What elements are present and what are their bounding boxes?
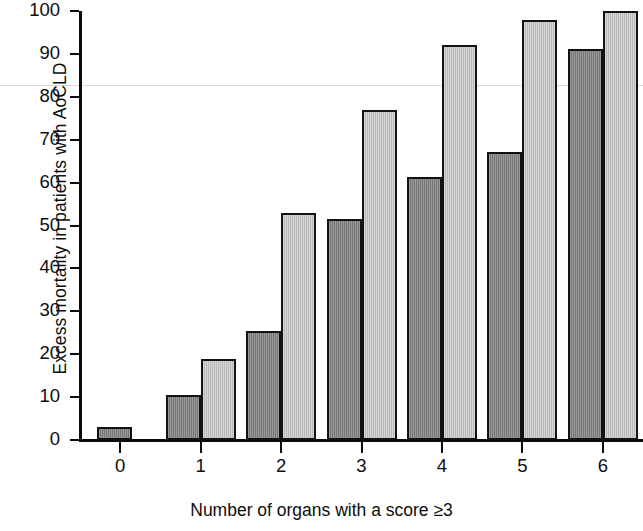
- y-axis-tick-label: 70: [14, 130, 60, 149]
- bar-series-dark-cat-1: [166, 395, 201, 440]
- y-axis-tick-label: 30: [14, 301, 60, 320]
- y-axis-tick-mark: [70, 396, 79, 398]
- y-axis-tick-label: 100: [14, 1, 60, 20]
- bar-series-dark-cat-4: [407, 177, 442, 440]
- bar-series-dark-cat-2: [246, 331, 281, 440]
- y-axis-tick-label: 20: [14, 344, 60, 363]
- x-axis-tick-mark: [200, 442, 202, 453]
- bar-series-light-cat-6: [603, 11, 638, 440]
- y-axis-tick-mark: [70, 310, 79, 312]
- x-axis-tick-label-3: 3: [342, 455, 382, 477]
- y-axis-tick-mark: [70, 353, 79, 355]
- plot-area: [80, 11, 643, 440]
- y-axis-tick-label: 90: [14, 44, 60, 63]
- x-axis-tick-label-4: 4: [422, 455, 462, 477]
- y-axis-tick-label: 0: [14, 430, 60, 449]
- y-axis-tick-mark: [70, 96, 79, 98]
- y-axis-tick-label: 80: [14, 87, 60, 106]
- bar-chart-figure: Excess mortality in patients with AoCLD …: [0, 0, 643, 531]
- x-axis-tick-mark: [361, 442, 363, 453]
- y-axis-tick-label: 40: [14, 258, 60, 277]
- bar-series-light-cat-2: [281, 213, 316, 440]
- y-axis-tick-mark: [70, 439, 79, 441]
- x-axis-title: Number of organs with a score ≥3: [0, 500, 643, 521]
- x-axis-tick-label-6: 6: [583, 455, 623, 477]
- x-axis-tick-mark: [280, 442, 282, 453]
- x-axis-tick-label-5: 5: [502, 455, 542, 477]
- bar-series-light-cat-4: [442, 45, 477, 440]
- y-axis-tick-mark: [70, 267, 79, 269]
- x-axis-tick-mark: [119, 442, 121, 453]
- y-axis-tick-label: 50: [14, 216, 60, 235]
- x-axis-tick-label-2: 2: [261, 455, 301, 477]
- y-axis-tick-label: 60: [14, 173, 60, 192]
- y-axis-tick-mark: [70, 53, 79, 55]
- y-axis-tick-mark: [70, 139, 79, 141]
- bar-series-light-cat-1: [201, 359, 236, 441]
- bar-series-dark-cat-3: [327, 219, 362, 440]
- x-axis-tick-mark: [521, 442, 523, 453]
- y-axis-tick-mark: [70, 10, 79, 12]
- y-axis-tick-label: 10: [14, 387, 60, 406]
- x-axis-tick-label-1: 1: [181, 455, 221, 477]
- bar-series-dark-cat-0: [97, 427, 132, 440]
- bar-series-dark-cat-6: [568, 49, 603, 440]
- x-axis-tick-mark: [441, 442, 443, 453]
- y-axis-tick-mark: [70, 225, 79, 227]
- bar-series-light-cat-5: [522, 20, 557, 440]
- y-axis-tick-mark: [70, 182, 79, 184]
- bar-series-light-cat-3: [362, 110, 397, 440]
- bar-series-dark-cat-5: [487, 152, 522, 440]
- x-axis-tick-label-0: 0: [100, 455, 140, 477]
- x-axis-tick-mark: [602, 442, 604, 453]
